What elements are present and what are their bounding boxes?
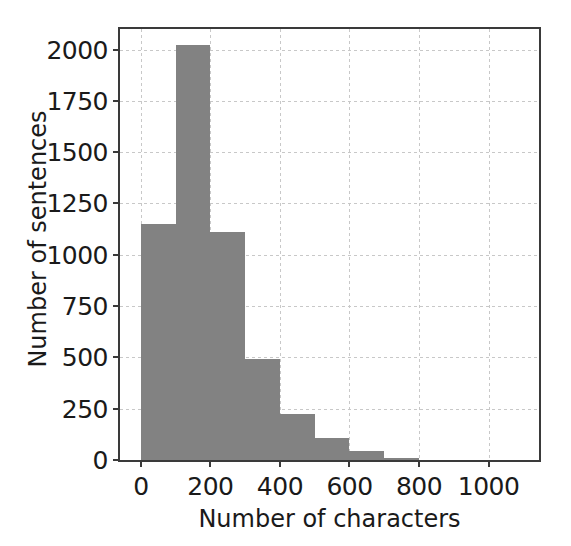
y-axis-tick-label: 500 bbox=[62, 343, 108, 372]
y-axis-tick-label: 1250 bbox=[46, 189, 108, 218]
y-axis-tick bbox=[113, 356, 120, 358]
gridline-horizontal bbox=[120, 255, 539, 256]
x-axis-tick bbox=[348, 460, 350, 467]
y-axis-tick-label: 1000 bbox=[46, 240, 108, 269]
gridline-vertical bbox=[210, 29, 211, 460]
y-axis-tick bbox=[113, 100, 120, 102]
y-axis-tick-label: 750 bbox=[62, 292, 108, 321]
gridline-horizontal bbox=[120, 101, 539, 102]
y-axis-tick bbox=[113, 202, 120, 204]
y-axis-tick-label: 1750 bbox=[46, 86, 108, 115]
x-axis-title: Number of characters bbox=[118, 505, 541, 533]
gridline-horizontal bbox=[120, 50, 539, 51]
histogram-figure: 0250500750100012501500175020000200400600… bbox=[0, 0, 571, 546]
x-axis-tick bbox=[209, 460, 211, 467]
gridline-horizontal bbox=[120, 306, 539, 307]
y-axis-tick-label: 0 bbox=[93, 446, 108, 475]
y-axis-tick-label: 1500 bbox=[46, 138, 108, 167]
plot-area: 0250500750100012501500175020000200400600… bbox=[118, 27, 541, 462]
y-axis-tick-label: 250 bbox=[62, 394, 108, 423]
histogram-bar bbox=[176, 45, 211, 460]
y-axis-tick bbox=[113, 305, 120, 307]
gridline-vertical bbox=[141, 29, 142, 460]
gridline-horizontal bbox=[120, 152, 539, 153]
y-axis-title: Number of sentences bbox=[24, 109, 52, 369]
x-axis-tick-label: 400 bbox=[257, 472, 303, 501]
y-axis-tick bbox=[113, 459, 120, 461]
gridline-vertical bbox=[489, 29, 490, 460]
x-axis-tick bbox=[279, 460, 281, 467]
x-axis-tick-label: 200 bbox=[187, 472, 233, 501]
histogram-bar bbox=[245, 359, 280, 460]
histogram-bar bbox=[384, 458, 419, 460]
gridline-horizontal bbox=[120, 203, 539, 204]
x-axis-tick-label: 1000 bbox=[458, 472, 520, 501]
x-axis-tick-label: 600 bbox=[326, 472, 372, 501]
gridline-horizontal bbox=[120, 357, 539, 358]
y-axis-tick-label: 2000 bbox=[46, 35, 108, 64]
gridline-horizontal bbox=[120, 409, 539, 410]
gridlines bbox=[120, 29, 539, 460]
histogram-bar bbox=[210, 232, 245, 460]
y-axis-tick bbox=[113, 254, 120, 256]
gridline-vertical bbox=[419, 29, 420, 460]
histogram-bar bbox=[349, 451, 384, 460]
histogram-bars bbox=[120, 29, 539, 460]
y-axis-tick bbox=[113, 49, 120, 51]
histogram-bar bbox=[315, 438, 350, 460]
histogram-bar bbox=[280, 414, 315, 460]
x-axis-tick-label: 800 bbox=[396, 472, 442, 501]
x-axis-tick bbox=[418, 460, 420, 467]
y-axis-tick bbox=[113, 151, 120, 153]
gridline-vertical bbox=[349, 29, 350, 460]
x-axis-tick bbox=[140, 460, 142, 467]
x-axis-tick bbox=[488, 460, 490, 467]
y-axis-tick bbox=[113, 408, 120, 410]
gridline-vertical bbox=[280, 29, 281, 460]
x-axis-tick-label: 0 bbox=[133, 472, 148, 501]
histogram-bar bbox=[141, 224, 176, 460]
